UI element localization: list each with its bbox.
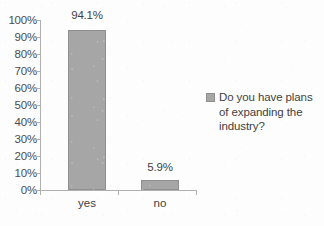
y-tick-label: 30% [15,133,37,145]
y-axis-labels: 100% 90% 80% 70% 60% 50% 40% 30% 20% 10%… [0,0,37,200]
x-category-label-yes: yes [58,197,116,209]
x-tick-mark [118,190,119,195]
y-tick-label: 40% [15,116,37,128]
bar-yes [68,30,106,190]
y-axis-line [40,20,41,190]
chart-page: 100% 90% 80% 70% 60% 50% 40% 30% 20% 10%… [0,0,324,226]
y-tick-label: 70% [15,65,37,77]
bar-no [141,180,179,190]
y-tick-label: 50% [15,99,37,111]
legend-swatch-icon [206,93,215,102]
y-tick-label: 10% [15,167,37,179]
x-tick-mark [40,190,41,195]
chart-legend: Do you have plans of expanding the indus… [206,90,320,134]
legend-label: Do you have plans of expanding the indus… [219,90,320,134]
x-category-label-no: no [131,197,189,209]
y-tick-label: 80% [15,48,37,60]
x-tick-mark [196,190,197,195]
y-tick-label: 90% [15,31,37,43]
y-tick-label: 60% [15,82,37,94]
bar-value-label-no: 5.9% [131,161,189,173]
y-tick-label: 20% [15,150,37,162]
y-tick-label: 100% [8,14,37,26]
plot-area: 100% 90% 80% 70% 60% 50% 40% 30% 20% 10%… [0,0,200,200]
bar-value-label-yes: 94.1% [58,9,116,21]
